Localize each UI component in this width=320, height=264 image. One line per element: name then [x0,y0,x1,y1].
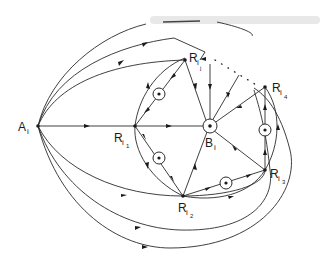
node-r1: R i 1 [114,124,137,149]
edge-rj-b [185,60,208,126]
edge-top-right-fragment [217,22,252,36]
svg-text:i: i [278,174,280,183]
dotted-rj-r4 [215,60,258,86]
svg-text:B: B [205,136,213,150]
node-r2: R i 2 [178,194,194,219]
svg-text:3: 3 [282,179,286,185]
svg-text:4: 4 [284,94,288,100]
node-b: B i [203,119,217,152]
svg-text:j: j [199,65,201,71]
scan-smudge [150,16,320,24]
node-r3: R i 3 [263,167,286,185]
svg-text:1: 1 [126,143,130,149]
svg-text:i: i [280,88,282,97]
edge-upper-right-b [212,75,239,121]
edges-a-upper [38,22,252,126]
node-rj: R i j [183,51,201,71]
directed-graph-diagram: A i R i 1 R i j R i 4 R i 3 R i 2 B i [0,0,320,264]
svg-text:2: 2 [190,213,194,219]
edge-a-top-outer [38,24,146,126]
edge-r3-b [213,130,265,170]
svg-text:i: i [214,143,216,152]
node-a: A i [18,120,40,136]
edge-a-to-rj-loop [38,38,205,126]
svg-text:i: i [186,208,188,217]
svg-text:i: i [27,127,29,136]
svg-text:i: i [197,58,199,67]
svg-text:A: A [18,120,26,134]
svg-text:i: i [122,138,124,147]
edge-left-arc [135,58,185,196]
edge-a-to-r4-outer [38,88,292,248]
edges-a-lower [38,88,292,249]
